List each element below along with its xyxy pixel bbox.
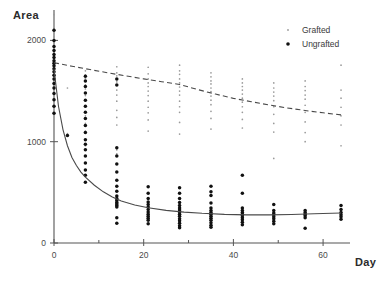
data-point [242,106,244,108]
data-point [147,90,149,92]
data-point [115,83,119,87]
data-point [179,106,181,108]
data-point [84,138,88,142]
data-point [146,197,150,201]
data-point [179,78,181,80]
data-point [115,222,119,226]
data-point [340,124,342,126]
data-point [85,88,87,90]
data-point [115,170,119,174]
data-point [242,101,244,103]
y-axis-title: Area [13,9,40,21]
data-point [210,118,212,120]
data-point [178,186,182,190]
data-point [179,90,181,92]
data-point [179,82,181,84]
data-point [241,223,245,227]
data-point [84,142,88,146]
data-point [84,117,88,121]
legend-label: Ungrafted [302,39,340,49]
y-tick-label: 0 [41,238,46,248]
data-point [84,111,88,115]
data-point [179,70,181,72]
data-point [147,130,149,132]
legend-label: Grafted [302,25,331,35]
data-point [340,89,342,91]
data-point [116,75,118,77]
data-point [242,86,244,88]
data-point [242,82,244,84]
data-point [304,80,306,82]
data-points-ungrafted [52,29,343,231]
data-point [53,36,55,38]
data-point [304,111,306,113]
data-point [52,112,56,116]
data-point [147,119,149,121]
data-point [67,87,69,89]
legend: GraftedUngrafted [286,25,339,49]
data-point [273,131,275,133]
data-point [52,56,56,60]
data-point [304,104,306,106]
data-point [179,73,181,75]
data-point [242,119,244,121]
data-point [241,192,245,196]
data-point [147,100,149,102]
data-point [147,95,149,97]
data-point [147,66,149,68]
data-point [84,98,88,102]
data-point [178,226,182,230]
data-point [116,66,118,68]
data-point [179,122,181,124]
data-point [116,124,118,126]
data-point [272,203,276,207]
data-point [84,131,88,135]
data-point [339,204,343,208]
small-dot-marker [287,29,289,31]
data-point [304,141,306,143]
fit-curve-ungrafted [54,69,341,215]
data-point [116,89,118,91]
data-point [52,29,56,33]
data-point [340,97,342,99]
data-point [115,77,119,81]
data-point [273,95,275,97]
data-point [52,39,56,43]
scatter-plot: Area Day 010002000 0204060 GraftedUngraf… [0,0,392,282]
data-point [115,205,119,209]
data-point [273,113,275,115]
data-point [52,98,56,102]
data-point [242,93,244,95]
data-point [209,185,213,189]
data-point [52,104,56,108]
data-point [116,94,118,96]
data-point [84,161,88,165]
data-point [52,53,56,57]
data-points-grafted [53,14,342,160]
data-point [273,123,275,125]
chart-canvas: Area Day 010002000 0204060 GraftedUngraf… [0,0,392,282]
data-point [84,79,88,83]
data-point [304,98,306,100]
data-point [242,78,244,80]
data-point [242,127,244,129]
data-point [66,134,70,138]
x-axis-title: Day [355,256,377,268]
data-point [147,73,149,75]
data-point [273,91,275,93]
data-point [340,64,342,66]
data-point [84,154,88,158]
data-point [242,111,244,113]
data-point [273,87,275,89]
data-point [210,80,212,82]
data-point [84,124,88,128]
y-tick-label: 1000 [27,137,46,147]
data-point [115,185,119,189]
data-point [339,217,343,221]
data-point [304,132,306,134]
data-point [146,218,150,222]
data-point [178,197,182,201]
data-point [85,95,87,97]
data-point [52,49,56,53]
data-point [115,162,119,166]
